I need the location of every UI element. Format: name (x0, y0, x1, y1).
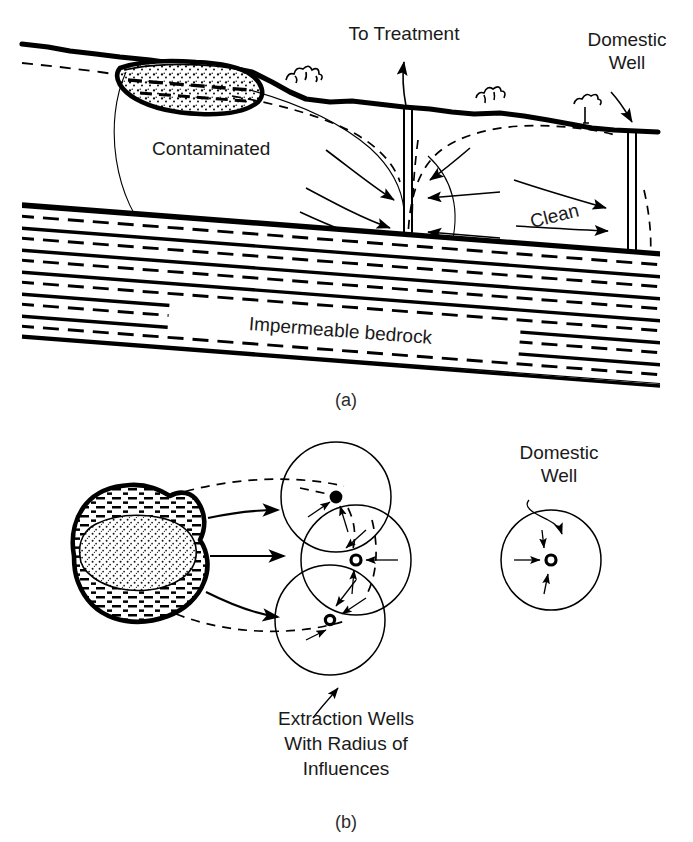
domestic-well-leader-icon (611, 92, 632, 122)
well-point-icon-2 (351, 555, 361, 565)
to-treatment-label: To Treatment (349, 23, 461, 44)
figure-root: To Treatment Domestic Well Contaminated … (0, 0, 693, 842)
bedrock-hatch-icon (0, 190, 693, 400)
panel-b-plan-view: Domestic Well Extraction Wells With Radi… (73, 442, 601, 832)
well-point-icon-1 (330, 491, 343, 504)
contaminant-plume-icon (117, 61, 262, 114)
domestic-well-point-icon (546, 555, 556, 565)
capture-inflow-arrow-icon (428, 148, 500, 238)
domestic-well-label-line1: Domestic (587, 29, 666, 50)
groundwater-remediation-figure: To Treatment Domestic Well Contaminated … (0, 0, 693, 842)
panel-a-caption: (a) (335, 390, 357, 410)
panel-a-cross-section: To Treatment Domestic Well Contaminated … (0, 23, 693, 410)
plume-transport-arrow-icon (206, 510, 284, 617)
radius-of-influence-circle-icon (275, 442, 411, 675)
domestic-well-label-line2: Well (609, 52, 646, 73)
clean-label: Clean (528, 199, 581, 231)
domestic-well-plan-leader-icon (527, 500, 562, 534)
extraction-wells-label-line3: Influences (303, 758, 390, 779)
domestic-well-plan-label-line1: Domestic (519, 442, 598, 463)
contaminated-label: Contaminated (152, 138, 270, 159)
ground-surface-icon (22, 44, 658, 132)
shrub-icon (286, 66, 601, 123)
extraction-wells-label-line2: With Radius of (284, 733, 408, 754)
panel-b-caption: (b) (335, 812, 357, 832)
domestic-well-inflow-arrow-icon (514, 530, 548, 594)
drawdown-cone-icon (408, 126, 618, 245)
contaminant-plume-plan-icon (73, 485, 208, 622)
well-point-icon-3 (325, 615, 334, 624)
capture-envelope-lower-icon (176, 614, 348, 631)
capture-envelope-upper-icon (170, 479, 344, 496)
to-treatment-arrow-icon (403, 62, 406, 106)
extraction-wells-label-line1: Extraction Wells (278, 708, 414, 729)
domestic-well-plan-label-line2: Well (541, 465, 578, 486)
